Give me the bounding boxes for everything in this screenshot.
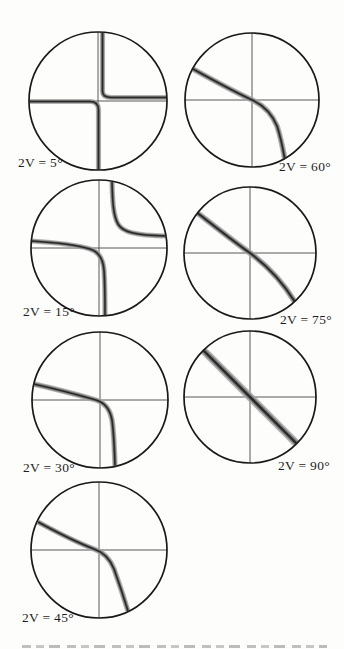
isogyre-band — [195, 211, 295, 302]
panel-2v-90 — [175, 322, 325, 472]
panel-2v-60 — [177, 25, 327, 175]
panel-2v-75 — [175, 178, 325, 328]
label-2v-5: 2V = 5° — [18, 155, 63, 171]
figure-svg-2v-45 — [24, 475, 174, 625]
figure-svg-2v-75 — [175, 178, 325, 328]
label-2v-75: 2V = 75° — [280, 312, 332, 328]
panel-2v-45 — [24, 475, 174, 625]
isogyre-band — [34, 384, 116, 466]
label-2v-90: 2V = 90° — [278, 458, 330, 474]
label-2v-15: 2V = 15° — [23, 304, 75, 320]
isogyre-group — [34, 384, 116, 466]
isogyre-band — [193, 69, 285, 160]
label-2v-30: 2V = 30° — [23, 460, 75, 476]
panel-2v-5 — [23, 26, 173, 176]
figure-svg-2v-90 — [175, 322, 325, 472]
figure-svg-2v-60 — [177, 25, 327, 175]
isogyre-group — [195, 211, 295, 302]
figure-svg-2v-15 — [24, 173, 174, 323]
label-2v-45: 2V = 45° — [22, 610, 74, 626]
cropped-caption-fragment — [22, 645, 327, 648]
isogyre-group — [193, 69, 285, 160]
panel-2v-15 — [24, 173, 174, 323]
figure-stage: 2V = 5° 2V = 15° 2V = 30° 2V = 45° 2V = … — [0, 0, 344, 649]
figure-svg-2v-5 — [23, 26, 173, 176]
figure-svg-2v-30 — [25, 325, 175, 475]
panel-2v-30 — [25, 325, 175, 475]
isogyre-band — [112, 182, 166, 237]
label-2v-60: 2V = 60° — [279, 159, 331, 175]
